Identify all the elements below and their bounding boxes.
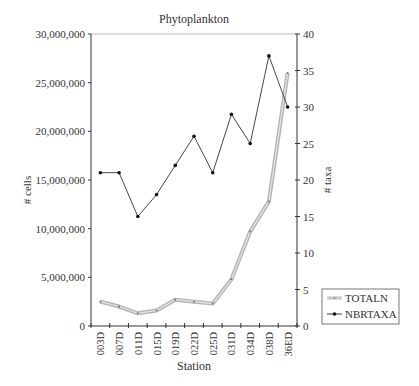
legend-label-nbrtaxa: NBRTAXA [345,308,397,320]
x-axis-ticks: 003D007D011D015D019D022D025D031D034D038D… [91,323,297,357]
y-tick-label-left: 0 [80,320,86,332]
left-y-axis-ticks: 05,000,00010,000,00015,000,00020,000,000… [36,28,92,332]
y-tick-label-right: 20 [303,174,315,186]
y-tick-label-right: 35 [303,65,315,77]
y-tick-label-right: 30 [303,101,315,113]
x-tick-label: 36ED [283,332,294,357]
y-tick-label-right: 15 [303,211,315,223]
data-point-nbrtaxa [192,134,196,138]
legend-label-totaln: TOTALN [345,292,388,304]
x-axis-label: Station [177,359,211,373]
data-point-totaln [212,303,214,305]
data-point-nbrtaxa [286,105,290,109]
x-tick-label: 011D [133,332,144,355]
data-point-totaln [230,278,232,280]
y-tick-label-left: 10,000,000 [36,223,86,235]
data-point-totaln [156,309,158,311]
y-tick-label-left: 5,000,000 [41,271,86,283]
x-tick-label: 015D [152,332,163,356]
x-tick-label: 034D [245,332,256,356]
y-axis-label-left: # cells [21,176,33,204]
data-point-totaln [268,200,270,202]
data-point-totaln [193,301,195,303]
series-nbrtaxa [99,54,290,218]
x-tick-label: 022D [189,332,200,356]
data-point-totaln [249,231,251,233]
y-tick-label-left: 25,000,000 [36,77,86,89]
x-tick-label: 019D [170,332,181,356]
data-point-totaln [174,299,176,301]
x-tick-label: 031D [226,332,237,356]
data-point-nbrtaxa [267,54,271,58]
y-tick-label-right: 10 [303,247,315,259]
y-tick-label-left: 30,000,000 [36,28,86,40]
data-point-totaln [118,306,120,308]
x-tick-label: 007D [114,332,125,356]
data-point-nbrtaxa [155,193,159,197]
data-point-nbrtaxa [117,171,121,175]
data-point-totaln [287,72,289,74]
data-point-nbrtaxa [136,215,140,219]
right-y-axis-ticks: 0510152025303540 [295,28,315,332]
x-tick-label: 003D [95,332,106,356]
data-point-nbrtaxa [248,142,252,146]
x-tick-label: 038D [264,332,275,356]
y-axis-label-right: # taxa [321,167,333,194]
y-tick-label-right: 40 [303,28,315,40]
y-tick-label-left: 15,000,000 [36,174,86,186]
y-tick-label-right: 5 [303,284,309,296]
data-point-totaln [99,301,101,303]
legend: TOTALN NBRTAXA [322,289,399,324]
y-tick-label-right: 25 [303,138,315,150]
x-tick-label: 025D [208,332,219,356]
y-tick-label-left: 20,000,000 [36,125,86,137]
y-tick-label-right: 0 [303,320,309,332]
phytoplankton-chart: Phytoplankton 05,000,00010,000,00015,000… [0,0,419,386]
data-point-nbrtaxa [230,113,234,117]
data-point-totaln [137,312,139,314]
chart-title: Phytoplankton [159,12,229,26]
data-point-nbrtaxa [99,171,103,175]
data-point-nbrtaxa [173,164,177,168]
data-point-nbrtaxa [211,171,215,175]
